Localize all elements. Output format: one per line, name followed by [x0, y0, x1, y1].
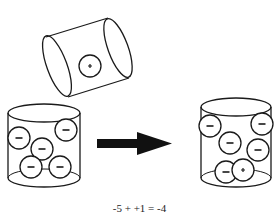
negative-charge-icon [55, 119, 77, 141]
positive-charge-icon [79, 55, 101, 77]
negative-charge-icon [199, 115, 221, 137]
negative-charge-icon [219, 132, 241, 154]
negative-charge-icon [8, 127, 30, 149]
after-container-charges [199, 113, 273, 183]
equation-label: -5 + +1 = -4 [0, 202, 279, 214]
arrow-icon [97, 132, 172, 155]
charge-diagram [0, 0, 279, 220]
positive-charge-icon [232, 159, 254, 181]
tilted-container-charges [79, 55, 101, 77]
negative-charge-icon [49, 156, 71, 178]
negative-charge-icon [251, 113, 273, 135]
negative-charge-icon [247, 139, 269, 161]
negative-charge-icon [20, 156, 42, 178]
